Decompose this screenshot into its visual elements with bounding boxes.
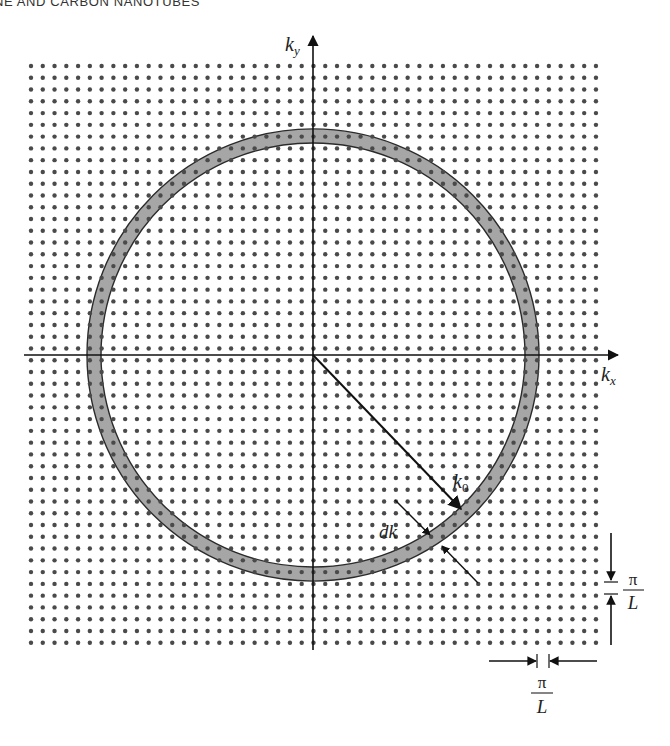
horizontal-spacing-denominator: L xyxy=(536,696,548,717)
dk-arrow-inner xyxy=(442,546,478,583)
vertical-spacing-numerator: π xyxy=(629,570,638,589)
vertical-spacing-denominator: L xyxy=(627,592,639,613)
horizontal-spacing-annotation: π L xyxy=(489,654,597,717)
dk-arrow-outer xyxy=(395,500,430,535)
ky-axis-label: ky xyxy=(285,33,300,58)
horizontal-spacing-numerator: π xyxy=(538,673,547,692)
vertical-spacing-annotation: π L xyxy=(604,533,644,645)
k-space-diagram: kx ky k0 dk π L π L xyxy=(0,0,670,746)
dk-label: dk xyxy=(379,521,398,542)
kx-axis-label: kx xyxy=(601,363,616,388)
radius-label: k0 xyxy=(453,470,468,495)
